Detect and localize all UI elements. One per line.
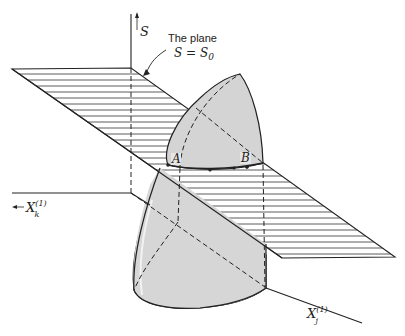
plane-annotation-line1: The plane: [168, 32, 217, 44]
plane-callout-arrow: [146, 50, 166, 74]
xk-axis-label: X(1)k: [25, 199, 47, 219]
plane-annotation-line2: S = S0: [174, 46, 214, 62]
point-a-label: A: [171, 152, 181, 166]
point-b-label: B: [240, 151, 250, 165]
s-axis-label: S: [140, 24, 149, 39]
xj-axis-label: X(1)j: [306, 305, 328, 325]
diagram-canvas: S The plane S = S0 X(1)k X(1)j A B: [0, 0, 405, 336]
point-b: [245, 165, 249, 169]
point-a: [166, 163, 170, 167]
